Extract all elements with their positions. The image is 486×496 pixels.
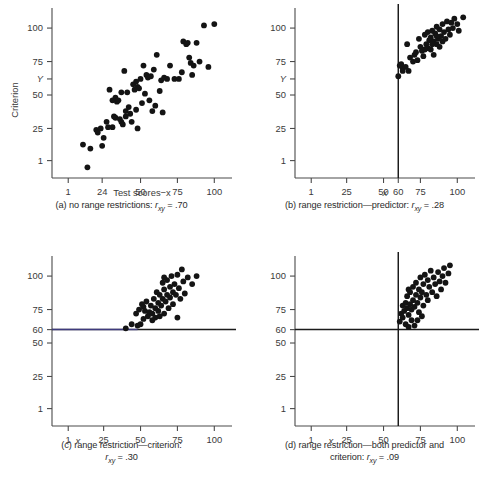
data-point xyxy=(443,280,449,286)
data-point xyxy=(173,292,179,298)
data-point xyxy=(409,317,415,323)
data-point xyxy=(456,28,462,34)
data-point xyxy=(80,142,86,148)
data-point xyxy=(149,317,155,323)
data-point xyxy=(154,52,160,58)
panel-b-xtick-25: 25 xyxy=(341,186,351,197)
data-point xyxy=(416,36,422,42)
panel-b-xtick-60: 60 xyxy=(393,186,403,197)
panel-c-ytick-1: 1 xyxy=(38,403,43,414)
data-point xyxy=(415,57,421,63)
data-point xyxy=(115,97,121,103)
panel-d-ytick-1: 1 xyxy=(281,403,286,414)
data-point xyxy=(406,68,412,74)
panel-b-caption-text: range restriction—predictor: xyxy=(298,200,409,210)
panel-d-caption: (d) range restriction—both predictor and… xyxy=(243,440,486,466)
data-point xyxy=(138,321,144,327)
data-point xyxy=(191,63,197,69)
data-point xyxy=(189,281,195,287)
panel-c-ytick-25: 25 xyxy=(33,371,43,382)
data-point xyxy=(418,295,424,301)
data-point xyxy=(144,299,150,305)
data-point xyxy=(152,103,158,109)
data-point xyxy=(169,273,175,279)
panel-d-restriction-lines xyxy=(295,252,479,426)
data-point xyxy=(194,40,200,46)
data-point xyxy=(182,291,188,297)
data-point xyxy=(395,73,401,79)
panel-a-ytick-Y: Y xyxy=(37,73,44,84)
data-point xyxy=(120,122,126,128)
data-point xyxy=(434,293,440,299)
panel-c-caption-prefix: (c) xyxy=(61,440,71,450)
panel-c-axes xyxy=(52,256,232,426)
panel-c-caption-line1: (c) range restriction—criterion: xyxy=(0,440,243,452)
data-point xyxy=(413,49,419,55)
panel-a: 12550Y75100 1245075100 Criterion Test sc… xyxy=(0,0,243,248)
data-point xyxy=(447,32,453,38)
data-point xyxy=(431,52,437,58)
data-point xyxy=(99,143,105,149)
data-point xyxy=(440,273,446,279)
panel-d-ytick-100: 100 xyxy=(270,270,286,281)
data-point xyxy=(135,126,141,132)
panel-b-ytick-100: 100 xyxy=(270,22,286,33)
range-restriction-figure: 12550Y75100 1245075100 Criterion Test sc… xyxy=(0,0,486,496)
panel-b-plot: 12550Y75100 125506075100 x xyxy=(243,0,486,200)
data-point xyxy=(425,297,431,303)
panel-b-datapoints xyxy=(395,14,466,79)
data-point xyxy=(420,281,426,287)
data-point xyxy=(157,88,163,94)
panel-b-ytick-Y: Y xyxy=(280,73,287,84)
panel-b-stat-subscript: xy xyxy=(414,205,421,212)
data-point xyxy=(177,296,183,302)
panel-c-stat-subscript: xy xyxy=(108,456,115,463)
panel-a-y-axis: 12550Y75100 xyxy=(27,22,52,166)
panel-b-caption: (b) range restriction—predictor: rxy = .… xyxy=(243,200,486,214)
data-point xyxy=(443,36,449,42)
panel-a-ytick-100: 100 xyxy=(27,22,43,33)
data-point xyxy=(138,76,144,82)
data-point xyxy=(141,63,147,69)
data-point xyxy=(434,33,440,39)
panel-b-ytick-1: 1 xyxy=(281,155,286,166)
panel-b-xtick-75: 75 xyxy=(415,186,425,197)
panel-a-stat-subscript: xy xyxy=(158,205,165,212)
data-point xyxy=(446,271,452,277)
data-point xyxy=(205,64,211,70)
data-point xyxy=(429,289,435,295)
data-point xyxy=(400,315,406,321)
panel-a-ylabel: Criterion xyxy=(9,82,20,117)
panel-b-ytick-50: 50 xyxy=(276,89,286,100)
panel-d-caption-text: range restriction—both predictor and xyxy=(298,440,444,450)
panel-d-ytick-25: 25 xyxy=(276,371,286,382)
data-point xyxy=(460,14,466,20)
panel-b-ytick-25: 25 xyxy=(276,123,286,134)
panel-d-caption-text2: criterion: xyxy=(330,452,364,462)
data-point xyxy=(166,305,172,311)
data-point xyxy=(118,89,124,95)
data-point xyxy=(180,279,186,285)
panel-a-xtick-100: 100 xyxy=(206,186,222,197)
data-point xyxy=(151,296,157,302)
data-point xyxy=(406,312,412,318)
panel-b-caption-prefix: (b) xyxy=(285,200,296,210)
data-point xyxy=(146,97,152,103)
data-point xyxy=(98,126,104,132)
panel-d-caption-prefix: (d) xyxy=(285,440,296,450)
panel-b-y-axis: 12550Y75100 xyxy=(270,22,295,166)
data-point xyxy=(422,47,428,53)
data-point xyxy=(429,41,435,47)
data-point xyxy=(186,55,192,61)
data-point xyxy=(412,323,418,329)
data-point xyxy=(431,275,437,281)
data-point xyxy=(170,301,176,307)
data-point xyxy=(435,269,441,275)
panel-a-ytick-75: 75 xyxy=(33,56,43,67)
panel-c-plot: 125506075100 1255075100 x xyxy=(0,248,243,443)
panel-c-caption-text: range restriction—criterion: xyxy=(74,440,182,450)
panel-c-ytick-50: 50 xyxy=(33,337,43,348)
panel-c-datapoints xyxy=(123,266,200,331)
panel-d-y-axis: 125506075100 xyxy=(270,270,295,414)
panel-d-caption-line1: (d) range restriction—both predictor and xyxy=(243,440,486,452)
